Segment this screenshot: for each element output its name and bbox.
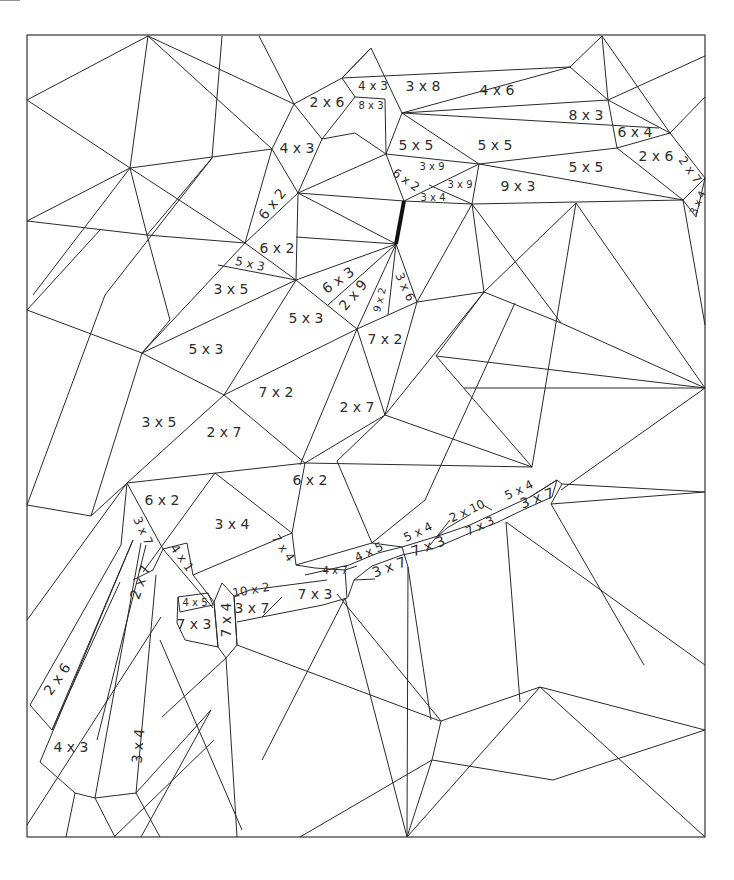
region-label: 9 x 3	[501, 179, 536, 193]
puzzle-frame	[27, 35, 705, 837]
region-label: 7 x 2	[259, 385, 294, 399]
region-label: 3 x 5	[142, 415, 177, 429]
region-label: 3 x 9	[448, 180, 473, 190]
region-label: 8 x 3	[359, 101, 384, 111]
region-label: 6 x 2	[260, 241, 295, 255]
region-label: 6 x 2	[145, 493, 180, 507]
region-label: 4 x 3	[54, 740, 89, 754]
region-label: 3 x 4	[421, 193, 446, 203]
region-label: 4 x 3	[358, 80, 388, 92]
region-label: 5 x 5	[478, 138, 513, 152]
region-label: 3 x 7	[235, 601, 270, 615]
region-label: 8 x 3	[569, 108, 604, 122]
polygon-edges	[0, 0, 705, 837]
region-label: 5 x 5	[569, 160, 604, 174]
region-label: 3 x 9	[420, 162, 445, 172]
region-label: 7 x 2	[368, 332, 403, 346]
region-label: 3 x 4	[130, 728, 147, 764]
region-label: 3 x 8	[406, 79, 441, 93]
region-label: 3 x 4	[215, 517, 250, 531]
region-label: 5 x 3	[189, 342, 224, 356]
region-label: 4 x 5	[183, 598, 208, 608]
region-label: 2 x 6	[310, 95, 345, 109]
region-label: 4 x 6	[480, 83, 515, 97]
region-label: 4 x 7	[323, 566, 348, 576]
region-label: 3 x 5	[214, 282, 249, 296]
region-label: 6 x 2	[293, 473, 328, 487]
region-label: 5 x 3	[289, 311, 324, 325]
region-label: 7 x 4	[219, 603, 233, 638]
region-label: 2 x 7	[207, 425, 242, 439]
region-label: 7 x 3	[298, 587, 333, 601]
region-label: 5 x 5	[399, 138, 434, 152]
region-label: 2 x 7	[340, 400, 375, 414]
region-label: 4 x 3	[280, 141, 315, 155]
region-label: 6 x 4	[618, 125, 653, 139]
region-label: 7 x 3	[177, 617, 212, 631]
region-label: 2 x 6	[639, 149, 674, 163]
